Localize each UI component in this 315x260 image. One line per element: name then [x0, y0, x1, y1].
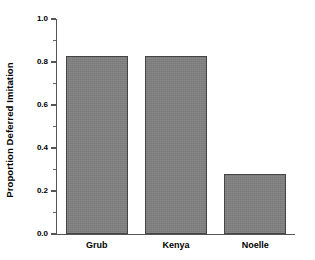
y-minor-tick-mark: [53, 212, 56, 213]
y-tick-label: 0.8: [8, 58, 48, 66]
y-minor-tick-mark: [53, 126, 56, 127]
x-tick-label-grub: Grub: [86, 240, 108, 250]
y-minor-tick-mark: [53, 169, 56, 170]
y-tick-label: 1.0: [8, 15, 48, 23]
plot-area: [57, 19, 295, 234]
y-tick-mark: [51, 61, 56, 62]
y-axis-title: Proportion Deferred Imitation: [0, 0, 18, 260]
bar-noelle: [224, 174, 286, 234]
y-tick-label: 0.4: [8, 144, 48, 152]
y-tick-label: 0.2: [8, 187, 48, 195]
y-tick-label: 0.0: [8, 230, 48, 238]
bar-grub: [66, 56, 128, 234]
y-tick-mark: [51, 18, 56, 19]
y-minor-tick-mark: [53, 40, 56, 41]
y-tick-mark: [51, 233, 56, 234]
x-tick-label-noelle: Noelle: [242, 240, 269, 250]
y-tick-mark: [51, 190, 56, 191]
y-tick-label: 0.6: [8, 101, 48, 109]
y-tick-mark: [51, 104, 56, 105]
x-tick-label-kenya: Kenya: [162, 240, 189, 250]
bar-chart: Proportion Deferred Imitation 1.00.80.60…: [0, 0, 315, 260]
y-tick-mark: [51, 147, 56, 148]
y-minor-tick-mark: [53, 83, 56, 84]
bar-kenya: [145, 56, 207, 234]
